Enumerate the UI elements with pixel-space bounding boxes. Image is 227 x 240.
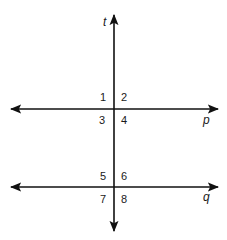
angle-1-label: 1 xyxy=(100,91,106,103)
angle-8-label: 8 xyxy=(121,193,127,205)
angle-5-label: 5 xyxy=(100,170,106,182)
angle-7-label: 7 xyxy=(100,193,106,205)
angle-6-label: 6 xyxy=(121,170,127,182)
diagram-canvas: t p q 1 2 3 4 5 6 7 8 xyxy=(0,0,227,240)
angle-3-label: 3 xyxy=(99,114,105,126)
label-t: t xyxy=(103,15,107,29)
label-q: q xyxy=(203,190,210,204)
angle-2-label: 2 xyxy=(121,91,127,103)
label-p: p xyxy=(202,113,210,127)
angle-4-label: 4 xyxy=(121,114,127,126)
